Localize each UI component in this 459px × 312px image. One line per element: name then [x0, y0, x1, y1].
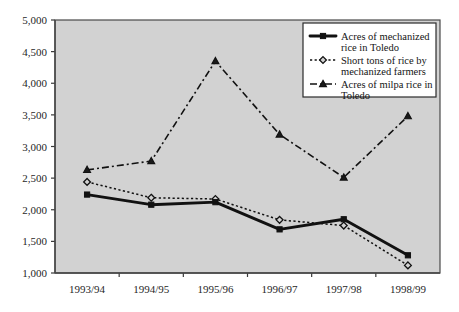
x-tick-label: 1996/97 [262, 283, 299, 295]
x-tick-label: 1995/96 [197, 283, 234, 295]
chart-container: 5,0004,5004,0003,5003,0002,5002,0001,500… [0, 0, 459, 312]
y-tick-label: 1,500 [22, 235, 47, 247]
data-point-square [213, 200, 218, 205]
x-axis: 1993/941994/951995/961996/971997/981998/… [55, 273, 440, 295]
x-tick-label: 1994/95 [133, 283, 170, 295]
line-chart: 5,0004,5004,0003,5003,0002,5002,0001,500… [0, 0, 459, 312]
y-tick-label: 2,000 [22, 204, 47, 216]
data-point-square [405, 253, 410, 258]
y-tick-label: 1,000 [22, 267, 47, 279]
data-point-square [320, 33, 325, 38]
y-tick-label: 3,000 [22, 141, 47, 153]
legend-label-continued: mechanized farmers [341, 66, 426, 77]
y-tick-label: 5,000 [22, 14, 47, 26]
legend-label-continued: rice in Toledo [341, 42, 399, 53]
legend-label: Acres of mechanized [341, 31, 430, 42]
x-tick-labels: 1993/941994/951995/961996/971997/981998/… [69, 283, 426, 295]
data-point-square [149, 202, 154, 207]
y-tick-label: 4,500 [22, 46, 47, 58]
y-tick-labels: 5,0004,5004,0003,5003,0002,5002,0001,500… [22, 14, 47, 279]
data-point-square [277, 227, 282, 232]
legend-label: Short tons of rice by [341, 55, 427, 66]
y-tick-label: 4,000 [22, 77, 47, 89]
legend-label: Acres of milpa rice in [341, 79, 433, 90]
y-axis: 5,0004,5004,0003,5003,0002,5002,0001,500… [22, 14, 55, 279]
data-point-square [341, 217, 346, 222]
legend-label-continued: Toledo [341, 90, 370, 101]
x-tick-label: 1997/98 [326, 283, 363, 295]
y-tick-label: 2,500 [22, 172, 47, 184]
y-tick-label: 3,500 [22, 109, 47, 121]
x-tick-label: 1993/94 [69, 283, 106, 295]
x-tick-label: 1998/99 [390, 283, 427, 295]
legend: Acres of mechanizedrice in ToledoShort t… [303, 23, 436, 101]
data-point-square [84, 192, 89, 197]
